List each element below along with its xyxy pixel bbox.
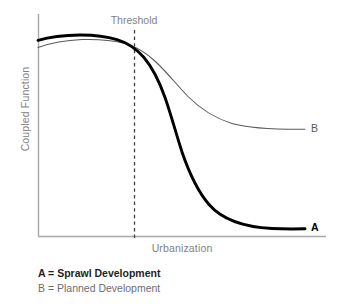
chart-legend: A = Sprawl Development B = Planned Devel…: [38, 266, 298, 296]
plot-area: [0, 0, 340, 308]
series-b-end-label: B: [311, 122, 318, 134]
chart-figure: Coupled Function Urbanization Threshold …: [0, 0, 340, 308]
series-a-end-label: A: [311, 221, 319, 233]
x-axis-label: Urbanization: [122, 242, 242, 254]
y-axis-label: Coupled Function: [19, 54, 31, 164]
curve-series-a: [38, 35, 305, 229]
threshold-annotation-label: Threshold: [84, 14, 184, 26]
legend-entry-b: B = Planned Development: [38, 281, 298, 296]
legend-entry-a: A = Sprawl Development: [38, 266, 298, 281]
